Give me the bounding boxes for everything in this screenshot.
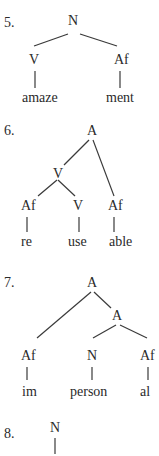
morpheme: ment [106, 90, 134, 105]
morpheme: al [140, 384, 150, 399]
node-v: V [73, 198, 83, 213]
node-v-inner: V [53, 166, 63, 181]
branch [34, 34, 68, 46]
branch [58, 180, 75, 196]
tree-number: 7. [4, 275, 15, 290]
node-root: N [50, 420, 60, 435]
node-root: A [87, 275, 98, 290]
tree-number: 8. [4, 426, 15, 441]
morphology-trees: 5. N V Af amaze ment 6. A V Af V Af re u… [0, 0, 159, 456]
branch [94, 292, 111, 308]
node-af: Af [108, 198, 123, 213]
morpheme: amaze [22, 90, 58, 105]
branch [64, 140, 89, 165]
branch [37, 292, 91, 338]
branch [93, 140, 114, 196]
morpheme: re [21, 234, 32, 249]
branch [120, 325, 147, 338]
tree-7: 7. A A Af N Af im person al [4, 275, 155, 399]
tree-8: 8. N [4, 420, 60, 454]
branch [38, 180, 57, 196]
tree-5: 5. N V Af amaze ment [4, 13, 134, 105]
node-af: Af [114, 52, 129, 67]
morpheme: im [22, 384, 37, 399]
node-af: Af [21, 348, 36, 363]
branch [80, 34, 117, 46]
tree-number: 6. [4, 123, 15, 138]
node-v: V [29, 52, 39, 67]
node-af: Af [21, 198, 36, 213]
node-root: N [68, 13, 78, 28]
node-n: N [87, 348, 97, 363]
morpheme: able [109, 234, 132, 249]
branch [93, 325, 116, 338]
node-af: Af [140, 348, 155, 363]
tree-number: 5. [4, 15, 15, 30]
node-a-inner: A [112, 308, 123, 323]
morpheme: person [70, 384, 107, 399]
morpheme: use [68, 234, 87, 249]
tree-6: 6. A V Af V Af re use able [4, 123, 132, 249]
node-root: A [87, 123, 98, 138]
